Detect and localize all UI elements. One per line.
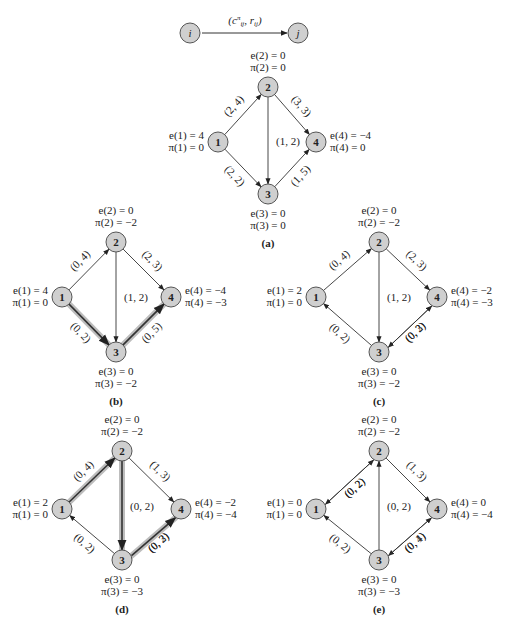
node-1-label: 1 [59, 291, 65, 303]
node-2-label: 2 [376, 236, 382, 248]
edge-label: (0, 2) [327, 320, 354, 346]
node-2-label: 2 [113, 236, 119, 248]
node-3-label: 3 [376, 554, 382, 566]
node-4-potential: π(4) = −3 [451, 296, 493, 309]
edge-label: (0, 4) [67, 247, 93, 273]
node-1-potential: π(1) = 0 [266, 508, 302, 521]
node-1-label: 1 [59, 503, 65, 515]
node-2-label: 2 [265, 81, 271, 93]
node-3-label: 3 [376, 346, 382, 358]
node-4-label: 4 [313, 136, 319, 148]
panel-caption: (b) [109, 395, 123, 408]
panel-d: (0, 4)(0, 2)(0, 2)(1, 3)(0, 2)(0, 3)1e(1… [12, 413, 237, 616]
edge-label: (2, 3) [139, 248, 165, 274]
node-4-label: 4 [434, 503, 440, 515]
edge-label: (0, 2) [71, 531, 98, 557]
node-1-potential: π(1) = 0 [12, 508, 48, 521]
panel-caption: (d) [115, 603, 129, 616]
node-2-potential: π(2) = −2 [358, 425, 400, 438]
edge-label: (0, 3) [145, 530, 172, 556]
edge-label: (1, 2) [387, 291, 411, 304]
panel-a: (2, 4)(2, 2)(1, 2)(3, 3)(1, 5)1e(1) = 4π… [168, 49, 371, 250]
node-4-potential: π(4) = −4 [195, 508, 237, 521]
diagram-canvas: i j (cπij, rij) (2, 4)(2, 2)(1, 2)(3, 3)… [0, 0, 509, 625]
node-3-label: 3 [265, 188, 271, 200]
legend-edge-label: (cπij, rij) [228, 14, 262, 28]
edge-label: (0, 2) [130, 500, 154, 513]
edge-label: (1, 3) [147, 458, 173, 484]
node-2-label: 2 [376, 445, 382, 457]
node-3-potential: π(3) = 0 [250, 219, 286, 232]
edge-label: (0, 2) [327, 531, 354, 556]
edge-label: (1, 2) [276, 135, 300, 148]
legend: i j (cπij, rij) [180, 14, 308, 43]
node-4-label: 4 [434, 291, 440, 303]
node-4-potential: π(4) = −3 [185, 296, 227, 309]
legend-node-i-label: i [188, 27, 191, 39]
panel-caption: (e) [373, 603, 386, 616]
panel-c: (0, 4)(0, 2)(1, 2)(2, 3)(0, 2)(0, 3)1e(1… [266, 204, 493, 408]
node-3-potential: π(3) = −2 [358, 377, 400, 390]
edge-label: (2, 2) [222, 163, 248, 189]
node-3-potential: π(3) = −3 [101, 585, 143, 598]
panel-caption: (c) [373, 395, 386, 408]
node-1-label: 1 [313, 503, 319, 515]
node-2-label: 2 [119, 445, 125, 457]
edge-label: (0, 3) [402, 319, 428, 345]
node-1-potential: π(1) = 0 [266, 296, 302, 309]
edge-label: (0, 2) [341, 475, 368, 501]
node-4-label: 4 [168, 291, 174, 303]
panel-caption: (a) [262, 237, 275, 250]
edge-label: (1, 5) [288, 162, 314, 189]
edge-label: (1, 3) [404, 458, 430, 484]
node-1-label: 1 [215, 136, 221, 148]
node-3-potential: π(3) = −2 [95, 377, 137, 390]
panel-e: (0, 2)(0, 2)(0, 2)(0, 2)(1, 3)(0, 4)(0, … [266, 413, 493, 616]
node-1-potential: π(1) = 0 [168, 141, 204, 154]
edge-label: (0, 2) [387, 500, 411, 513]
node-3-potential: π(3) = −3 [358, 585, 400, 598]
node-3-label: 3 [119, 554, 125, 566]
edge-label: (0, 1) [402, 529, 429, 555]
node-2-potential: π(2) = −2 [95, 216, 137, 229]
node-4-potential: π(4) = 0 [330, 141, 366, 154]
edge-label: (2, 4) [221, 93, 247, 120]
node-2-potential: π(2) = −2 [358, 216, 400, 229]
node-2-potential: π(2) = 0 [250, 61, 286, 74]
node-2-potential: π(2) = −2 [101, 425, 143, 438]
node-3-label: 3 [113, 346, 119, 358]
node-4-label: 4 [178, 503, 184, 515]
node-1-potential: π(1) = 0 [12, 296, 48, 309]
node-4-potential: π(4) = −4 [451, 508, 493, 521]
edge-label: (1, 2) [124, 291, 148, 304]
panel-b: (0, 4)(0, 2)(1, 2)(2, 3)(0, 5)1e(1) = 4π… [12, 204, 227, 408]
edge-label: (2, 3) [403, 248, 429, 274]
node-1-label: 1 [313, 291, 319, 303]
